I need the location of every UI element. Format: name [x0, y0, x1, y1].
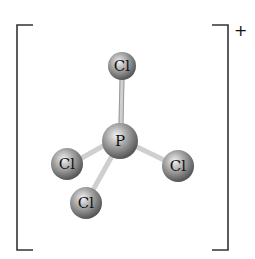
- atom-p-center: P: [102, 123, 138, 159]
- svg-text:Cl: Cl: [170, 157, 186, 175]
- atom-cl-right: Cl: [162, 150, 194, 182]
- atom-cl-top: Cl: [108, 52, 136, 80]
- svg-text:P: P: [115, 132, 125, 150]
- right-bracket: [212, 25, 228, 250]
- svg-text:Cl: Cl: [59, 155, 75, 173]
- svg-text:Cl: Cl: [114, 57, 130, 75]
- molecule-diagram: + Cl Cl Cl P Cl: [0, 0, 255, 259]
- svg-text:Cl: Cl: [78, 194, 94, 212]
- atom-cl-bottom: Cl: [70, 187, 102, 219]
- charge-label: +: [234, 21, 247, 40]
- atom-cl-left: Cl: [51, 148, 83, 180]
- left-bracket: [17, 25, 33, 250]
